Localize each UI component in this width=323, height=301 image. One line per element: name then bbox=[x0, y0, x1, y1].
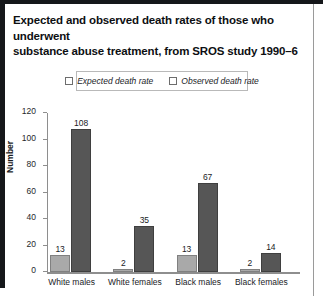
x-axis-label: White males bbox=[48, 277, 95, 287]
x-axis-label: White females bbox=[108, 277, 162, 287]
bar-expected: 2 bbox=[113, 269, 133, 272]
y-axis-tick-label: 120 bbox=[22, 106, 36, 116]
bar-expected: 13 bbox=[177, 255, 197, 272]
y-axis-tick-label: 40 bbox=[27, 212, 36, 222]
x-axis-line bbox=[47, 272, 300, 274]
bar-value-label: 2 bbox=[121, 258, 126, 268]
bar-observed: 14 bbox=[261, 253, 281, 272]
legend-item-expected: Expected death rate bbox=[65, 76, 153, 86]
legend-item-observed: Observed death rate bbox=[169, 76, 259, 86]
bar-value-label: 2 bbox=[248, 258, 253, 268]
legend-swatch-observed-icon bbox=[169, 77, 177, 85]
bar-value-label: 13 bbox=[182, 244, 191, 254]
legend-label-expected: Expected death rate bbox=[77, 76, 153, 86]
y-axis-line bbox=[47, 113, 48, 273]
bar-observed: 35 bbox=[134, 226, 154, 272]
chart-title: Expected and observed death rates of tho… bbox=[13, 13, 305, 60]
y-axis-tick: 40 bbox=[43, 218, 47, 219]
y-axis-tick-label: 80 bbox=[27, 159, 36, 169]
y-axis-tick-label: 100 bbox=[22, 133, 36, 143]
bar-observed: 108 bbox=[71, 129, 91, 272]
chart-title-line-2: substance abuse treatment, from SROS stu… bbox=[13, 44, 305, 60]
plot-area: Number 020406080100120 131082351367214 W… bbox=[47, 113, 300, 272]
bar-expected: 2 bbox=[240, 269, 260, 272]
chart-title-line-1: Expected and observed death rates of tho… bbox=[13, 13, 305, 44]
bar-value-label: 108 bbox=[74, 118, 88, 128]
x-axis-label: Black males bbox=[175, 277, 221, 287]
scan-edge-right bbox=[313, 4, 314, 296]
bar-observed: 67 bbox=[198, 183, 218, 272]
y-axis-tick-label: 0 bbox=[31, 265, 36, 275]
y-axis-title: Number bbox=[5, 141, 15, 173]
legend-label-observed: Observed death rate bbox=[181, 76, 259, 86]
chart-legend: Expected death rate Observed death rate bbox=[76, 71, 248, 91]
y-axis-tick: 20 bbox=[43, 245, 47, 246]
y-axis-tick-label: 60 bbox=[27, 186, 36, 196]
bar-value-label: 13 bbox=[55, 244, 64, 254]
chart-figure: Expected and observed death rates of tho… bbox=[0, 0, 323, 301]
bar-value-label: 67 bbox=[203, 172, 212, 182]
legend-swatch-expected-icon bbox=[65, 77, 73, 85]
bar-value-label: 14 bbox=[266, 242, 275, 252]
y-axis-tick: 80 bbox=[43, 165, 47, 166]
y-axis-tick-label: 20 bbox=[27, 239, 36, 249]
scan-edge-top bbox=[0, 0, 323, 4]
bar-expected: 13 bbox=[50, 255, 70, 272]
y-axis-tick: 120 bbox=[43, 112, 47, 113]
y-axis-tick: 0 bbox=[43, 271, 47, 272]
y-axis-tick: 60 bbox=[43, 192, 47, 193]
bar-value-label: 35 bbox=[140, 215, 149, 225]
y-axis-tick: 100 bbox=[43, 139, 47, 140]
x-axis-label: Black females bbox=[235, 277, 288, 287]
